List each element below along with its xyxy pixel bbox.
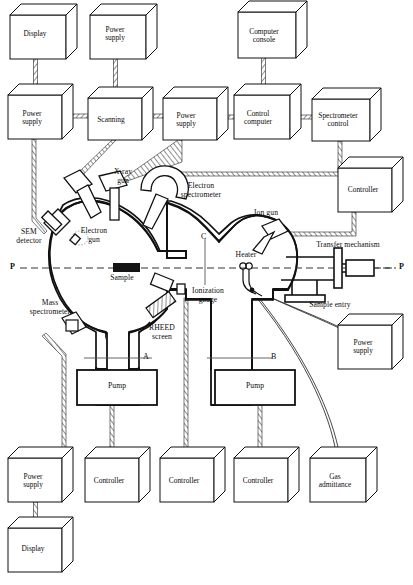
label-xray-gun: X-ray gun — [104, 168, 142, 185]
box-label-gas-admittance: Gas admittance — [308, 473, 362, 490]
label-mass-spectrometer: Mass spectrometer — [20, 299, 80, 316]
instrument-box-scanning — [88, 87, 153, 140]
label-pump-right: Pump — [215, 382, 295, 391]
axis-label-p-left: P — [10, 262, 15, 271]
label-rheed-screen: RHEED screen — [141, 324, 183, 341]
label-sample: Sample — [102, 274, 142, 283]
box-label-display-bottom: Display — [8, 545, 58, 553]
box-label-controller-b2: Controller — [159, 477, 209, 485]
box-label-display-top: Display — [10, 30, 60, 38]
figure-canvas: Display Power supply Computer console Po… — [0, 0, 413, 585]
label-sample-entry: Sample entry — [298, 301, 362, 310]
instrument-box-controller-b1 — [85, 447, 150, 502]
box-label-spectrometer-control: Spectrometer control — [310, 112, 366, 129]
label-sem-detector: SEM detector — [6, 228, 52, 245]
box-label-power-supply-bottom: Power supply — [8, 473, 58, 490]
box-label-power-supply-mid: Power supply — [161, 112, 211, 129]
axis-label-b: B — [271, 352, 276, 361]
label-pump-left: Pump — [77, 382, 157, 391]
box-label-power-supply-right: Power supply — [338, 339, 388, 356]
box-label-control-computer: Control computer — [232, 110, 284, 127]
instrument-box-controller-b3 — [234, 447, 299, 502]
box-label-scanning: Scanning — [86, 116, 136, 124]
box-label-controller-right: Controller — [338, 186, 388, 194]
box-label-controller-b3: Controller — [233, 477, 283, 485]
box-label-power-supply-top: Power supply — [90, 26, 140, 43]
label-electron-spectrometer: Electron spectrometer — [170, 182, 232, 199]
box-label-computer-console: Computer console — [238, 28, 290, 45]
axis-label-p-right: P — [399, 262, 404, 271]
instrument-box-controller-b2 — [160, 447, 225, 502]
box-label-controller-b1: Controller — [84, 477, 134, 485]
label-heater: Heater — [229, 251, 263, 260]
axis-label-a: A — [143, 352, 149, 361]
label-electron-gun: Electron gun — [70, 227, 118, 244]
label-ion-gun: Ion gun — [246, 209, 286, 218]
label-ionization-gauge: Ionization gauge — [184, 287, 232, 304]
label-transfer-mechanism: Transfer mechanism — [302, 241, 394, 250]
axis-label-c: C — [201, 232, 206, 241]
box-label-power-supply-left: Power supply — [8, 110, 56, 127]
